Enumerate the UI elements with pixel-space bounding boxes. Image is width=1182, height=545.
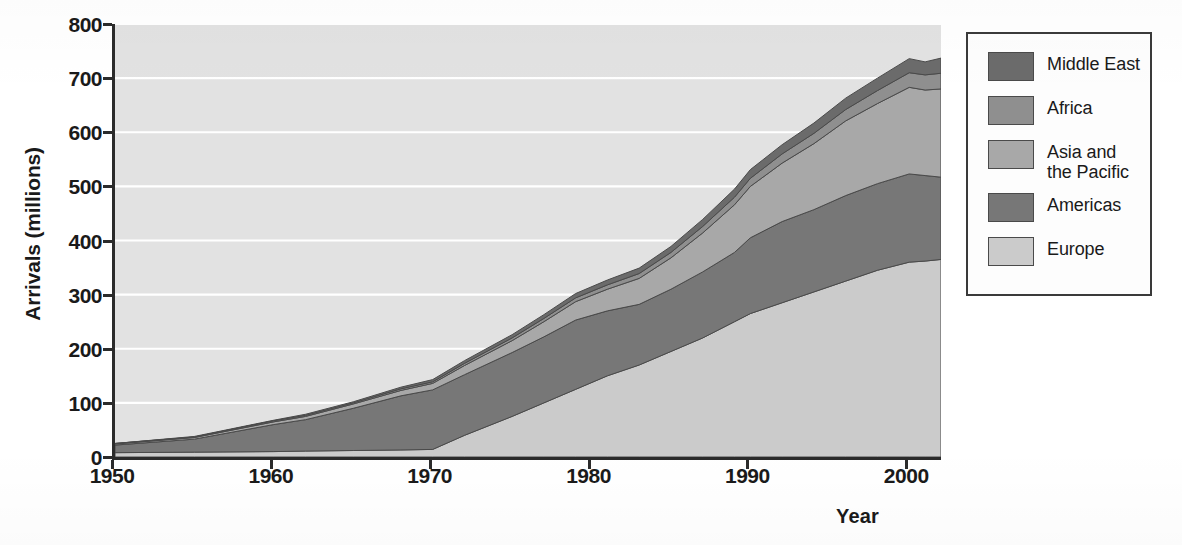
x-axis-title: Year: [836, 505, 879, 528]
y-tick-mark-100: [103, 402, 112, 405]
legend-swatch-icon: [988, 52, 1034, 81]
y-tick-label-200: 200: [40, 338, 102, 359]
legend-swatch-icon: [988, 140, 1034, 169]
y-tick-label-600: 600: [40, 122, 102, 143]
y-tick-mark-500: [103, 185, 112, 188]
x-tick-mark-1970: [429, 460, 432, 469]
y-tick-label-100: 100: [40, 392, 102, 413]
legend-swatch-icon: [988, 193, 1034, 222]
x-tick-mark-1960: [270, 460, 273, 469]
legend-item-europe[interactable]: Europe: [988, 236, 1142, 270]
y-tick-mark-800: [103, 23, 112, 26]
legend-item-label: Europe: [1047, 236, 1104, 259]
y-tick-mark-400: [103, 240, 112, 243]
legend-swatch-icon: [988, 237, 1034, 266]
legend-item-americas[interactable]: Americas: [988, 192, 1142, 226]
y-tick-label-700: 700: [40, 68, 102, 89]
y-tick-mark-600: [103, 131, 112, 134]
x-tick-mark-1990: [746, 460, 749, 469]
chart-legend: Middle EastAfricaAsia andthe PacificAmer…: [966, 32, 1152, 296]
legend-swatch-icon: [988, 96, 1034, 125]
plot-area: [112, 24, 941, 460]
legend-item-list: Middle EastAfricaAsia andthe PacificAmer…: [988, 51, 1142, 280]
legend-item-label: Africa: [1047, 95, 1092, 118]
stacked-area-plot: [115, 24, 941, 457]
legend-item-africa[interactable]: Africa: [988, 95, 1142, 129]
x-tick-mark-1950: [111, 460, 114, 469]
y-tick-mark-0: [103, 456, 112, 459]
y-tick-label-800: 800: [40, 14, 102, 35]
legend-item-label: Americas: [1047, 192, 1121, 215]
legend-item-label-line2: the Pacific: [1047, 162, 1129, 182]
chart-figure: Arrivals (millions) 01002003004005006007…: [0, 0, 1182, 545]
y-tick-mark-300: [103, 294, 112, 297]
legend-item-asia-and[interactable]: Asia andthe Pacific: [988, 139, 1142, 182]
y-tick-label-300: 300: [40, 284, 102, 305]
y-tick-mark-700: [103, 77, 112, 80]
legend-item-label: Asia andthe Pacific: [1047, 139, 1129, 182]
x-tick-mark-2000: [905, 460, 908, 469]
x-tick-mark-1980: [588, 460, 591, 469]
y-tick-label-400: 400: [40, 230, 102, 251]
legend-item-label: Middle East: [1047, 51, 1140, 74]
legend-item-middle-east[interactable]: Middle East: [988, 51, 1142, 85]
y-tick-label-500: 500: [40, 176, 102, 197]
y-tick-mark-200: [103, 348, 112, 351]
